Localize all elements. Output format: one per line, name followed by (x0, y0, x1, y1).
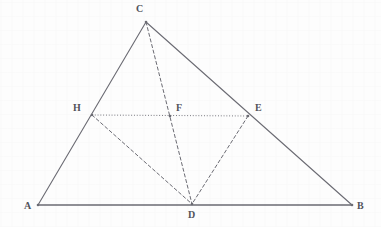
geometry-figure: ABCDEFH (0, 0, 381, 227)
vertex-point-f (169, 115, 172, 118)
vertex-label-e: E (255, 103, 262, 113)
vertex-point-h (91, 114, 94, 117)
vertex-label-d: D (188, 210, 195, 220)
geometry-canvas (0, 0, 381, 227)
segments-group (38, 22, 352, 205)
vertex-point-d (191, 203, 194, 206)
vertex-label-f: F (176, 103, 182, 113)
vertices-group (37, 21, 354, 207)
vertex-label-c: C (136, 4, 143, 14)
vertex-point-e (247, 115, 250, 118)
vertex-point-b (351, 204, 354, 207)
segment-HD (92, 115, 192, 204)
segment-ED (192, 116, 248, 204)
segment-AC (38, 22, 146, 205)
vertex-label-a: A (24, 201, 31, 211)
segment-CD (146, 22, 192, 204)
segment-CB (146, 22, 352, 205)
vertex-label-h: H (73, 103, 81, 113)
vertex-label-b: B (357, 201, 364, 211)
vertex-point-a (37, 204, 40, 207)
vertex-point-c (145, 21, 148, 24)
